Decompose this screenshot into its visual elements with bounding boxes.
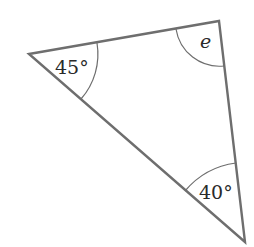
angle-label-left: 45° [55, 56, 89, 78]
triangle [29, 21, 245, 242]
angle-label-top-right: e [200, 30, 211, 52]
angle-label-bottom-right: 40° [199, 181, 233, 203]
triangle-diagram: 45° e 40° [0, 0, 254, 247]
